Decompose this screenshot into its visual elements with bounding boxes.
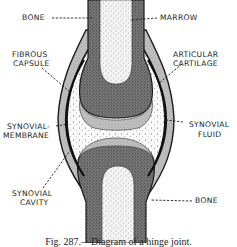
label-synovial-fluid-line1: SYNOVIAL: [189, 121, 229, 130]
label-synovial-cavity-line2: CAVITY: [20, 199, 49, 208]
label-bone-top: BONE: [22, 14, 45, 23]
figure-caption: Fig. 287.—Diagram of a hinge joint.: [0, 236, 237, 247]
label-marrow: MARROW: [160, 14, 198, 23]
lower-marrow: [102, 166, 134, 243]
upper-marrow: [100, 0, 132, 84]
label-synovial-membrane-line2: MEMBRANE: [3, 132, 49, 141]
label-articular-cartilage-line2: CARTILAGE: [173, 60, 218, 69]
label-synovial-fluid-line2: FLUID: [198, 131, 221, 140]
label-fibrous-capsule-line2: CAPSULE: [13, 60, 50, 69]
label-bone-bottom: BONE: [195, 197, 218, 206]
